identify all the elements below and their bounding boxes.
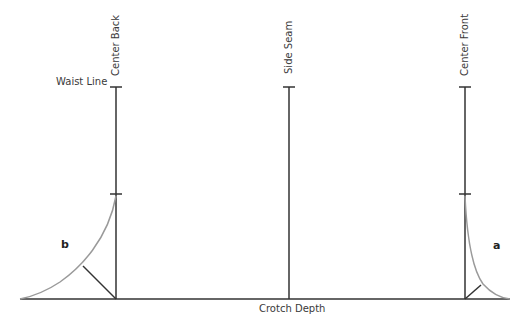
point-a-label: a [493,240,500,251]
crotch-depth-label: Crotch Depth [259,304,325,314]
point-b-label: b [61,239,69,250]
front-crotch-diagonal [465,285,481,299]
back-crotch-diagonal [83,266,116,299]
waist-line-label: Waist Line [56,77,107,87]
side-seam-label: Side Seam [284,21,294,74]
center-front-label: Center Front [460,14,470,76]
center-back-label: Center Back [111,15,121,76]
pattern-draft-diagram [0,0,526,331]
front-crotch-curve [465,196,510,299]
